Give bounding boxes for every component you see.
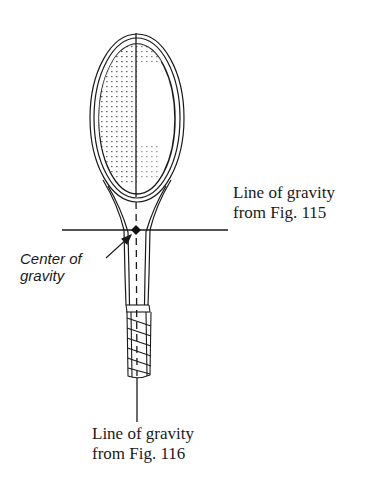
racket-grip — [126, 305, 151, 378]
label-line-of-gravity-115: Line of gravity from Fig. 115 — [233, 183, 335, 223]
label-line-1: Center of — [20, 250, 82, 267]
racket-diagram — [0, 0, 380, 489]
label-line-2: gravity — [20, 267, 82, 284]
label-line-2: from Fig. 115 — [233, 203, 335, 223]
label-line-of-gravity-116: Line of gravity from Fig. 116 — [92, 424, 194, 464]
string-shading — [99, 44, 165, 185]
label-line-2: from Fig. 116 — [92, 444, 194, 464]
label-line-1: Line of gravity — [233, 183, 335, 203]
label-center-of-gravity: Center of gravity — [20, 250, 82, 284]
label-line-1: Line of gravity — [92, 424, 194, 444]
center-of-gravity-marker — [131, 225, 141, 235]
center-of-gravity-arrow — [106, 235, 131, 258]
